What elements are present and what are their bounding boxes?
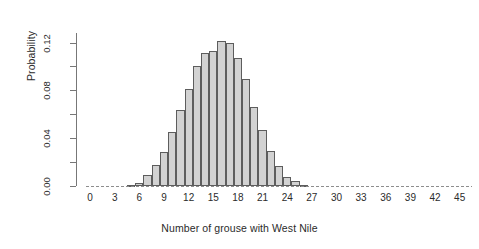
bar <box>242 79 250 186</box>
y-tick-major <box>70 186 76 187</box>
bar <box>168 132 176 186</box>
x-tick-label: 6 <box>126 192 152 203</box>
x-tick-label: 21 <box>250 192 276 203</box>
bar <box>209 51 217 186</box>
binomial-probability-chart: Probability 0.000.040.080.12 03691215182… <box>0 0 479 249</box>
bar <box>283 177 291 186</box>
bar <box>258 130 266 186</box>
bar <box>143 175 151 186</box>
x-tick-label: 36 <box>373 192 399 203</box>
bar <box>267 151 275 186</box>
x-tick-label: 24 <box>274 192 300 203</box>
x-tick-label: 15 <box>200 192 226 203</box>
bar <box>201 53 209 186</box>
bar <box>217 41 225 186</box>
bar <box>234 58 242 186</box>
bar <box>250 107 258 186</box>
bar <box>193 66 201 186</box>
bar <box>152 165 160 186</box>
bar <box>160 152 168 186</box>
bar <box>185 89 193 186</box>
x-tick-label: 39 <box>397 192 423 203</box>
x-tick-label: 33 <box>348 192 374 203</box>
x-tick-label: 45 <box>447 192 473 203</box>
x-tick-label: 42 <box>422 192 448 203</box>
bar-series <box>0 0 479 186</box>
bar <box>176 110 184 186</box>
bar <box>226 43 234 186</box>
x-tick-label: 3 <box>102 192 128 203</box>
bar <box>275 166 283 186</box>
x-axis-title: Number of grouse with West Nile <box>0 222 479 234</box>
x-axis-baseline <box>86 186 472 187</box>
x-tick-label: 0 <box>77 192 103 203</box>
x-tick-label: 12 <box>176 192 202 203</box>
x-tick-label: 30 <box>323 192 349 203</box>
x-tick-label: 9 <box>151 192 177 203</box>
x-tick-label: 27 <box>299 192 325 203</box>
x-tick-label: 18 <box>225 192 251 203</box>
